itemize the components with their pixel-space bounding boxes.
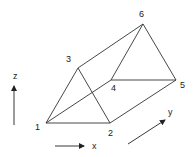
prism-diagram: 123456 zxy bbox=[0, 0, 194, 157]
y-axis-arrow-icon bbox=[128, 120, 165, 144]
node-label-3: 3 bbox=[66, 54, 71, 64]
coordinate-axes: zxy bbox=[13, 71, 173, 151]
edge-5-6 bbox=[143, 24, 176, 80]
edge-2-5 bbox=[110, 80, 176, 123]
prism-edges bbox=[46, 24, 176, 123]
x-axis-label: x bbox=[92, 141, 97, 151]
node-labels: 123456 bbox=[35, 9, 185, 138]
node-label-2: 2 bbox=[108, 128, 113, 138]
edge-3-6 bbox=[78, 24, 143, 68]
node-label-1: 1 bbox=[35, 122, 40, 132]
edge-1-4 bbox=[46, 80, 111, 123]
edge-1-3 bbox=[46, 68, 78, 123]
edge-2-3 bbox=[78, 68, 110, 123]
z-axis-label: z bbox=[13, 71, 18, 81]
edge-4-6 bbox=[111, 24, 143, 80]
y-axis-label: y bbox=[168, 107, 173, 117]
node-label-6: 6 bbox=[139, 9, 144, 19]
node-label-5: 5 bbox=[180, 80, 185, 90]
node-label-4: 4 bbox=[111, 83, 116, 93]
